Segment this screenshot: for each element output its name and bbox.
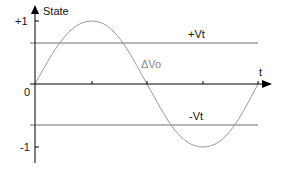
- y-tick-label-minus-one: -1: [20, 141, 30, 153]
- x-axis-arrow-icon: [262, 80, 272, 88]
- y-axis-label: State: [43, 5, 69, 17]
- upper-threshold-label: +Vt: [188, 28, 205, 40]
- y-axis-arrow-icon: [31, 5, 39, 14]
- y-tick-label-zero: 0: [24, 86, 30, 98]
- offset-label: ΔVo: [141, 58, 161, 70]
- state-diagram: State t +1 0 -1 +Vt -Vt ΔVo: [0, 0, 282, 170]
- lower-threshold-label: -Vt: [189, 110, 203, 122]
- y-tick-label-plus-one: +1: [15, 15, 28, 27]
- x-axis-label: t: [259, 66, 262, 78]
